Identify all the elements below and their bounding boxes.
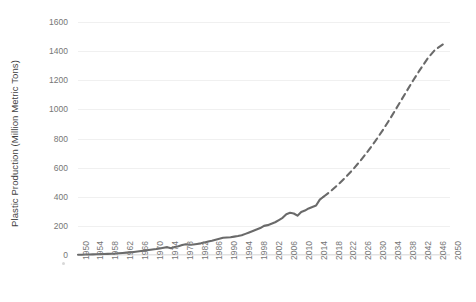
x-tick-label: 1954 [96, 241, 105, 260]
x-tick-label: 1994 [245, 241, 254, 260]
y-tick-label: 1000 [8, 105, 68, 114]
x-tick-label: 2042 [424, 241, 433, 260]
y-axis-tick-labels: 16001400120010008006004002000 [0, 22, 74, 255]
x-tick-label: 2050 [454, 241, 463, 260]
y-tick-label: 0 [8, 251, 68, 260]
x-tick-label: 1950 [82, 241, 91, 260]
plastic-production-chart: Plastic Production (Million Metric Tons)… [0, 0, 476, 302]
x-tick-label: 2006 [290, 241, 299, 260]
x-tick-label: 2034 [394, 241, 403, 260]
x-tick-label: 2014 [320, 241, 329, 260]
x-tick-label: 1978 [186, 241, 195, 260]
x-tick-label: 1990 [230, 241, 239, 260]
x-tick-label: 1986 [215, 241, 224, 260]
x-axis-tick-labels: 1950195419581962196619701974197819821986… [78, 258, 450, 302]
x-tick-label: 2038 [409, 241, 418, 260]
y-tick-label: 200 [8, 222, 68, 231]
x-tick-label: 1966 [141, 241, 150, 260]
x-tick-label: 2010 [305, 241, 314, 260]
x-tick-label: 1998 [260, 241, 269, 260]
x-tick-label: 2018 [335, 241, 344, 260]
series-lines [78, 22, 450, 255]
x-tick-label: 1970 [156, 241, 165, 260]
projected-line [324, 43, 447, 197]
y-tick-label: 1200 [8, 76, 68, 85]
x-tick-label: 1962 [126, 241, 135, 260]
x-tick-label: 2046 [439, 241, 448, 260]
y-tick-label: 1400 [8, 47, 68, 56]
plot-area [78, 22, 450, 255]
x-tick-label: 2026 [364, 241, 373, 260]
x-tick-label: 1974 [171, 241, 180, 260]
x-tick-label: 2030 [379, 241, 388, 260]
y-tick-label: 400 [8, 193, 68, 202]
y-tick-label: 1600 [8, 18, 68, 27]
corner-dot-icon [62, 262, 65, 265]
x-tick-label: 2002 [275, 241, 284, 260]
y-tick-label: 600 [8, 164, 68, 173]
y-tick-label: 800 [8, 135, 68, 144]
x-tick-label: 1958 [111, 241, 120, 260]
x-tick-label: 2022 [349, 241, 358, 260]
x-tick-label: 1982 [201, 241, 210, 260]
